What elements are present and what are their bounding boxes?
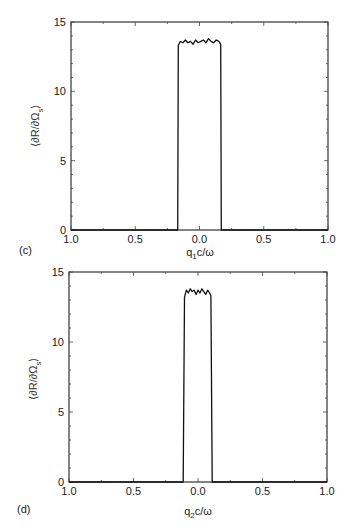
x-tick-label: 1.0 — [319, 485, 334, 497]
y-tick-label: 10 — [52, 336, 64, 348]
x-tick-label: 0.0 — [190, 485, 205, 497]
x-tick-label: 0.5 — [126, 485, 141, 497]
x-tick-label: 1.0 — [61, 485, 76, 497]
y-axis-label: ⟨∂R/∂Ωs⟩ — [27, 339, 42, 419]
data-series-line — [69, 289, 327, 482]
axes: 0510151.00.50.00.51.0 — [52, 266, 335, 497]
chart-panel-d: 0510151.00.50.00.51.0 (d) q2c/ω ⟨∂R/∂Ωs⟩ — [0, 0, 352, 265]
x-tick-label: 0.5 — [255, 485, 270, 497]
x-axis-label: q2c/ω — [158, 505, 238, 520]
y-tick-label: 5 — [58, 406, 64, 418]
plot-area: 0510151.00.50.00.51.0 — [0, 0, 352, 530]
panel-label: (d) — [17, 503, 30, 515]
y-tick-label: 15 — [52, 266, 64, 278]
